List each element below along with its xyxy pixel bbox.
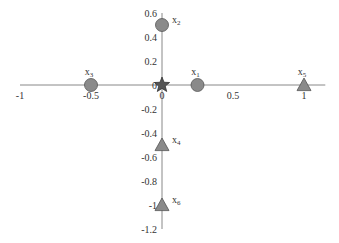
point-label: x5	[298, 66, 307, 79]
y-tick-label: 0	[152, 80, 157, 91]
triangle-marker	[155, 138, 169, 151]
data-points: x1x2x3x4x5x6	[85, 14, 312, 211]
triangle-marker	[155, 198, 169, 211]
point-label: x1	[191, 66, 200, 79]
point-label: x3	[85, 66, 94, 79]
y-tick-label: 0.6	[145, 8, 158, 19]
x-tick-label: 1	[302, 90, 307, 101]
circle-marker	[191, 79, 204, 92]
point-label: x6	[172, 194, 181, 207]
x-tick-label: -1	[16, 90, 24, 101]
y-tick-label: -0.2	[141, 104, 157, 115]
x-tick-label: 0	[160, 90, 165, 101]
circle-marker	[156, 19, 169, 32]
x-tick-label: 0.5	[227, 90, 240, 101]
circle-marker	[85, 79, 98, 92]
point-label: x4	[172, 134, 181, 147]
y-tick-label: -0.4	[141, 128, 157, 139]
y-tick-label: -0.8	[141, 176, 157, 187]
y-tick-label: -1.2	[141, 224, 157, 235]
point-label: x2	[172, 14, 181, 27]
y-tick-label: -0.6	[141, 152, 157, 163]
y-tick-label: 0.4	[145, 32, 158, 43]
y-tick-label: 0.2	[145, 56, 158, 67]
scatter-chart: -1-0.500.510.60.40.20-0.2-0.4-0.6-0.8-1-…	[0, 0, 339, 243]
triangle-marker	[297, 78, 311, 91]
